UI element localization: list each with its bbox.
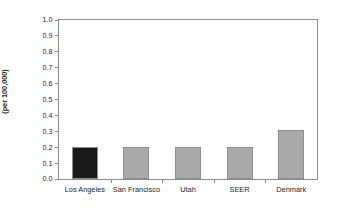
y-axis-tick-label: 0.3	[43, 128, 56, 135]
bar-denmark	[278, 130, 304, 179]
y-axis-tick-label: 0.2	[43, 144, 56, 151]
y-axis-tick-label: 0.0	[43, 175, 56, 182]
x-axis-label-san-francisco: San Francisco	[111, 185, 163, 195]
bar-seer	[227, 147, 253, 179]
x-axis-labels: Los AngelesSan FranciscoUtahSEERDenmark	[58, 185, 318, 199]
y-axis-tick-label: 0.7	[43, 64, 56, 71]
x-axis-tick-mark	[214, 180, 215, 183]
y-axis-tick-label: 0.6	[43, 80, 56, 87]
y-axis-ticks: 0.00.10.20.30.40.50.60.70.80.91.0	[0, 19, 58, 180]
x-axis-label-seer: SEER	[214, 185, 266, 195]
bar-san-francisco	[123, 147, 149, 179]
y-axis-tick-label: 0.4	[43, 112, 56, 119]
x-axis-label-los-angeles: Los Angeles	[59, 185, 111, 195]
y-axis-tick-label: 1.0	[43, 16, 56, 23]
x-axis-tick-mark	[162, 180, 163, 183]
x-axis-label-denmark: Denmark	[265, 185, 317, 195]
bar-chart: Annual incidence (per 100,000) 0.00.10.2…	[0, 0, 347, 213]
x-axis-tick-mark	[111, 180, 112, 183]
bar-los-angeles	[72, 147, 98, 179]
x-axis-label-utah: Utah	[162, 185, 214, 195]
bar-utah	[175, 147, 201, 179]
y-axis-tick-label: 0.9	[43, 32, 56, 39]
x-axis-tick-mark	[265, 180, 266, 183]
y-axis-tick-label: 0.1	[43, 160, 56, 167]
y-axis-tick-label: 0.5	[43, 96, 56, 103]
x-axis-ticks	[58, 180, 318, 184]
bars-layer	[59, 20, 317, 179]
y-axis-tick-label: 0.8	[43, 48, 56, 55]
